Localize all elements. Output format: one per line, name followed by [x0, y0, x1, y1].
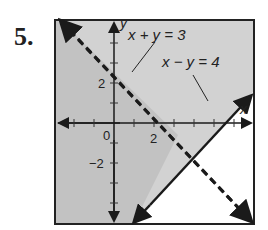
tick-label-yneg2: −2: [89, 156, 104, 171]
tick-label-y2: 2: [98, 76, 105, 91]
x-axis-label: x: [239, 101, 248, 117]
inequality-graph: y x x + y = 3 x − y = 4 0 2 2 −2: [0, 0, 268, 230]
eq2-label: x − y = 4: [161, 53, 220, 70]
tick-label-x2: 2: [150, 131, 157, 146]
eq1-label: x + y = 3: [127, 26, 186, 43]
tick-label-0: 0: [103, 128, 110, 143]
y-axis-label: y: [119, 15, 128, 31]
